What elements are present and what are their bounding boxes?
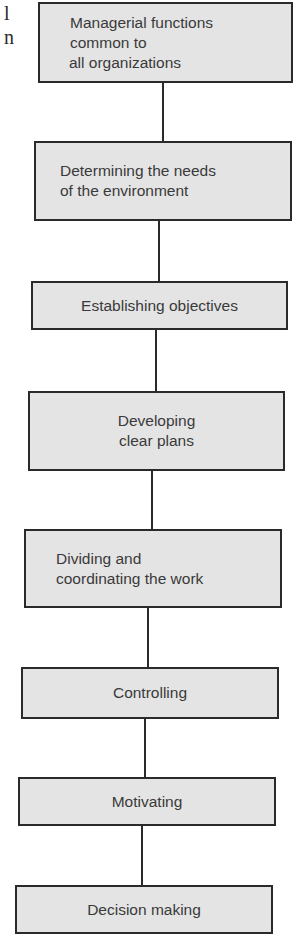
box-text-line: of the environment: [60, 181, 188, 201]
connector-line: [144, 719, 146, 777]
box-text-line: Decision making: [87, 900, 201, 920]
connector-line: [141, 826, 143, 885]
page-edge-fragment-1: l: [4, 2, 10, 24]
flow-box-determining-needs: Determining the needs of the environment: [34, 141, 292, 221]
box-text-line: Dividing and: [56, 549, 141, 569]
box-text-line: coordinating the work: [56, 569, 203, 589]
connector-line: [158, 221, 160, 281]
flow-box-developing-plans: Developing clear plans: [28, 391, 285, 471]
box-text-line: Developing: [118, 411, 196, 431]
box-text-line: Determining the needs: [60, 161, 216, 181]
box-text-line: all organizations: [69, 53, 181, 73]
flow-box-establishing-objectives: Establishing objectives: [31, 281, 288, 330]
flow-box-controlling: Controlling: [21, 667, 279, 719]
box-text-line: Establishing objectives: [81, 296, 238, 316]
box-text-line: clear plans: [119, 431, 194, 451]
connector-line: [155, 330, 157, 391]
flow-box-dividing-coordinating: Dividing and coordinating the work: [24, 529, 282, 608]
connector-line: [147, 608, 149, 667]
box-text-line: Controlling: [113, 683, 187, 703]
box-text-line: common to: [70, 33, 147, 53]
connector-line: [162, 83, 164, 141]
box-text-line: Managerial functions: [70, 13, 213, 33]
flow-box-motivating: Motivating: [18, 777, 276, 826]
flow-box-decision-making: Decision making: [15, 885, 273, 934]
box-text-line: Motivating: [112, 792, 183, 812]
connector-line: [151, 471, 153, 529]
page-edge-fragment-2: n: [4, 26, 14, 48]
flow-box-managerial-functions: Managerial functions common to all organ…: [38, 2, 293, 83]
